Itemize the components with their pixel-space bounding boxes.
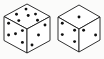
right-die-top-pips (78, 16, 81, 19)
dice-scene-svg (0, 0, 104, 59)
left-die (4, 4, 50, 53)
right-die (58, 5, 100, 52)
dice-illustration (0, 0, 104, 59)
